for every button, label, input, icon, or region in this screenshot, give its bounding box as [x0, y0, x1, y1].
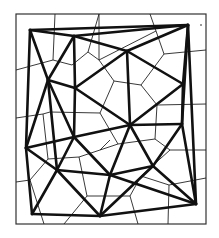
delaunay-edge — [74, 137, 110, 175]
voronoi-edge — [16, 114, 43, 118]
delaunay-edge — [127, 51, 130, 125]
delaunay-edge — [26, 148, 32, 214]
delaunay-edge — [74, 36, 75, 88]
delaunay-edge — [26, 30, 30, 148]
delaunay-edge — [110, 125, 130, 175]
delaunay-edge — [130, 124, 182, 125]
annotation-dot — [200, 24, 202, 26]
delaunay-edge — [74, 88, 75, 137]
voronoi-edge — [130, 196, 138, 224]
delaunay-edge — [57, 170, 110, 175]
voronoi-edge — [88, 52, 99, 60]
voronoi-edge — [53, 14, 55, 60]
delaunay-edge — [74, 36, 127, 51]
delaunay-edge — [30, 30, 48, 80]
delaunay-edge — [57, 170, 100, 216]
delaunay-edge — [57, 137, 74, 170]
voronoi-delaunay-diagram — [0, 0, 219, 238]
delaunay-edge — [182, 84, 183, 124]
delaunay-edge — [75, 88, 130, 125]
delaunay-edge — [127, 51, 183, 84]
delaunay-edge — [110, 175, 196, 204]
voronoi-edge — [43, 114, 48, 159]
delaunay-edge — [100, 204, 196, 216]
voronoi-edge — [168, 185, 169, 224]
voronoi-edge — [141, 85, 157, 105]
delaunay-edge — [153, 124, 182, 166]
voronoi-edge — [79, 157, 87, 196]
delaunay-edge — [48, 36, 74, 80]
delaunay-edge — [26, 80, 48, 148]
voronoi-edge — [155, 105, 157, 139]
delaunay-edge — [32, 170, 57, 214]
delaunay-edge — [74, 125, 130, 137]
delaunay-edge — [30, 30, 74, 36]
delaunay-edge — [26, 137, 74, 148]
voronoi-edge — [43, 112, 50, 114]
delaunay-edge — [48, 80, 57, 170]
voronoi-edge — [16, 60, 53, 70]
delaunay-edge — [130, 125, 153, 166]
delaunay-edge — [32, 214, 100, 216]
